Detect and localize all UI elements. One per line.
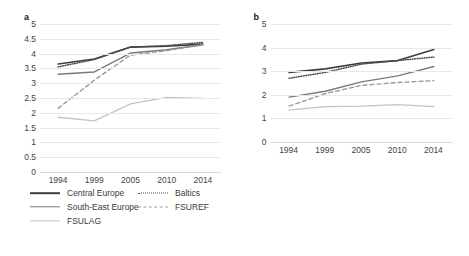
x-tick-label: 2010 [157,176,176,185]
panel-b-plot-canvas [271,24,452,142]
gridline [40,157,221,158]
y-tick-label: 2 [262,91,267,100]
gridline [40,24,221,25]
legend-swatch-icon [138,202,168,212]
gridline [271,95,452,96]
panel-b-plot-area: 012345 19941999200520102014 [247,24,452,142]
x-tick-label: 2010 [388,146,407,155]
y-tick-label: 3 [31,79,36,88]
y-tick-label: 4 [262,43,267,52]
legend-swatch-icon [30,188,60,198]
panel-b-series-lines [271,24,452,142]
gridline [40,54,221,55]
legend-item-fsuref[interactable]: FSUREF [138,202,230,212]
panel-b: b 012345 19941999200520102014 Central Eu… [235,0,469,256]
series-line-fsulag [289,105,434,110]
legend-row: FSULAG [30,216,230,226]
y-tick-label: 2 [31,109,36,118]
legend-label: Central Europe [67,188,124,198]
y-tick-label: 0.5 [24,153,36,162]
series-line-baltics [289,57,434,78]
gridline [40,142,221,143]
legend-swatch-icon [30,202,60,212]
y-tick-label: 5 [31,20,36,29]
figure-two-panel-line-charts: a 00.511.522.533.544.55 1994199920052010… [0,0,469,256]
legend-item-central-europe[interactable]: Central Europe [30,188,138,198]
legend-label: South-East Europe [67,202,139,212]
y-tick-label: 1 [262,114,267,123]
gridline [271,48,452,49]
panel-b-y-axis-labels: 012345 [247,24,269,142]
gridline [271,118,452,119]
x-tick-label: 1994 [49,176,68,185]
panel-a-label: a [24,12,29,22]
x-tick-label: 2005 [121,176,140,185]
series-line-south-east-europe [58,45,203,75]
gridline [40,98,221,99]
gridline [40,172,221,173]
panel-b-label: b [254,12,260,22]
y-tick-label: 4 [31,49,36,58]
panel-a-plot-canvas [40,24,221,172]
legend-row: South-East EuropeFSUREF [30,202,230,212]
y-tick-label: 3.5 [24,64,36,73]
x-tick-label: 2014 [424,146,443,155]
y-tick-label: 0 [31,168,36,177]
y-tick-label: 0 [262,138,267,147]
legend-swatch-icon [30,216,60,226]
y-tick-label: 3 [262,67,267,76]
y-tick-label: 1 [31,138,36,147]
x-tick-label: 2014 [193,176,212,185]
x-tick-label: 2005 [352,146,371,155]
panel-a-plot-area: 00.511.522.533.544.55 199419992005201020… [16,24,221,172]
series-line-central-europe [289,49,434,72]
gridline [40,128,221,129]
x-tick-label: 1999 [315,146,334,155]
gridline [271,71,452,72]
panel-a-y-axis-labels: 00.511.522.533.544.55 [16,24,38,172]
y-tick-label: 2.5 [24,94,36,103]
y-tick-label: 5 [262,20,267,29]
x-tick-label: 1999 [85,176,104,185]
y-tick-label: 1.5 [24,123,36,132]
legend-item-baltics[interactable]: Baltics [138,188,230,198]
panel-a: a 00.511.522.533.544.55 1994199920052010… [0,0,235,256]
gridline [40,83,221,84]
legend-label: Baltics [175,188,200,198]
series-line-fsulag [58,97,203,120]
gridline [271,24,452,25]
y-tick-label: 4.5 [24,35,36,44]
gridline [271,142,452,143]
legend-swatch-icon [138,188,168,198]
gridline [40,68,221,69]
gridline [40,113,221,114]
gridline [40,39,221,40]
legend-label: FSUREF [175,202,209,212]
legend-label: FSULAG [67,216,101,226]
legend-item-south-east-europe[interactable]: South-East Europe [30,202,138,212]
legend-item-fsulag[interactable]: FSULAG [30,216,138,226]
x-tick-label: 1994 [279,146,298,155]
panel-a-legend: Central EuropeBalticsSouth-East EuropeFS… [30,188,230,230]
legend-row: Central EuropeBaltics [30,188,230,198]
